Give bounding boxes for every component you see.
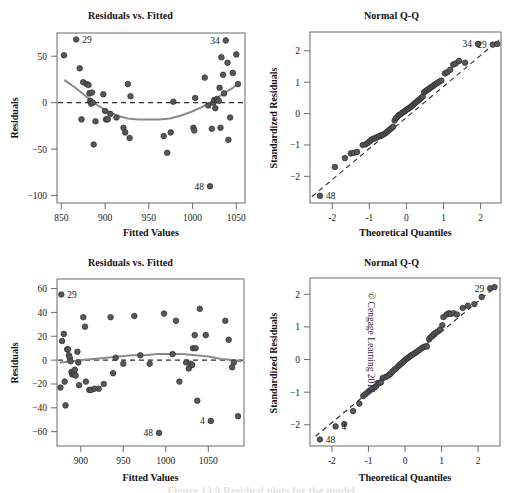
- data-point: [59, 292, 65, 298]
- data-point: [192, 332, 198, 338]
- x-tick-label: 2: [476, 456, 481, 466]
- data-point: [128, 93, 134, 99]
- data-point: [220, 72, 226, 78]
- data-point: [173, 318, 179, 324]
- data-point: [121, 361, 127, 367]
- y-tick-label: −40: [32, 403, 47, 413]
- data-point: [164, 150, 170, 156]
- plot-canvas-bottom-left: 900950100010506040200−20−40−60Fitted Val…: [0, 246, 261, 493]
- qq-reference-line: [312, 40, 499, 197]
- data-point: [207, 184, 213, 190]
- data-point: [132, 313, 138, 319]
- point-annotation: 48: [326, 435, 336, 445]
- y-axis-title: Residuals: [9, 342, 20, 383]
- panel-title: Normal Q-Q: [261, 10, 522, 21]
- y-tick-label: 20: [38, 332, 48, 342]
- y-tick-label: 0: [42, 98, 47, 108]
- data-point: [203, 332, 209, 338]
- data-point: [91, 142, 97, 148]
- x-tick-label: 1000: [156, 456, 175, 466]
- x-tick-label: 1: [439, 456, 444, 466]
- data-point: [195, 398, 201, 404]
- data-point: [197, 306, 203, 312]
- copyright-notice: © Cengage Learning 2013: [366, 292, 376, 452]
- data-point: [77, 66, 83, 72]
- data-point: [354, 149, 360, 155]
- data-point: [223, 38, 229, 44]
- y-tick-label: −50: [32, 145, 47, 155]
- y-tick-label: −20: [32, 379, 47, 389]
- data-point: [208, 418, 214, 424]
- figure-caption-partial: Figure 13.9 Residual plots for the model: [0, 484, 522, 493]
- x-tick-label: 1050: [199, 456, 218, 466]
- data-point: [122, 130, 128, 136]
- y-tick-label: 0: [295, 355, 300, 365]
- data-point: [81, 314, 87, 320]
- y-axis-title: Residuals: [9, 97, 20, 138]
- panel-top-right: Normal Q-Q -2-1012210−1−2Theoretical Qua…: [261, 0, 522, 246]
- point-annotation: 48: [326, 191, 336, 201]
- data-point: [456, 58, 462, 64]
- data-point: [156, 430, 162, 436]
- plot-frame: [57, 33, 245, 203]
- data-point: [447, 67, 453, 73]
- data-point: [332, 164, 338, 170]
- data-point: [61, 53, 67, 59]
- y-tick-label: −1: [290, 388, 300, 398]
- y-tick-label: 2: [295, 290, 300, 300]
- x-axis-title: Fitted Values: [123, 472, 179, 483]
- data-point: [462, 60, 468, 66]
- x-tick-label: 1000: [183, 213, 202, 223]
- data-point: [101, 381, 107, 387]
- data-point: [147, 361, 153, 367]
- panel-title: Residuals vs. Fitted: [0, 257, 261, 268]
- data-point: [216, 98, 222, 104]
- data-point: [58, 385, 64, 391]
- data-point: [206, 103, 212, 109]
- data-point: [105, 117, 111, 123]
- x-axis-title: Theoretical Quantiles: [359, 227, 451, 238]
- data-point: [495, 41, 501, 47]
- data-point: [62, 379, 68, 385]
- data-point: [350, 408, 356, 414]
- point-annotation: 34: [463, 39, 473, 49]
- x-tick-label: 2: [478, 213, 483, 223]
- point-annotation: 29: [82, 35, 92, 45]
- y-tick-label: −2: [290, 172, 300, 182]
- data-point: [440, 323, 446, 329]
- data-point: [75, 349, 81, 355]
- data-point: [96, 386, 102, 392]
- data-point: [170, 351, 176, 357]
- data-point: [161, 133, 167, 139]
- data-point: [76, 382, 82, 388]
- data-point: [90, 100, 96, 106]
- data-point: [127, 135, 133, 141]
- data-point: [61, 331, 67, 337]
- y-tick-label: 1: [295, 322, 300, 332]
- data-point: [333, 424, 339, 430]
- point-annotation: 29: [477, 40, 487, 50]
- point-annotation: 29: [475, 284, 485, 294]
- x-tick-label: 950: [142, 213, 157, 223]
- y-tick-label: 60: [38, 284, 48, 294]
- data-point: [424, 344, 430, 350]
- data-point: [390, 124, 396, 130]
- data-point: [65, 347, 71, 353]
- y-tick-label: −100: [27, 191, 47, 201]
- x-tick-label: -2: [328, 213, 336, 223]
- data-point: [192, 128, 198, 134]
- data-point: [72, 367, 78, 373]
- data-point: [223, 318, 229, 324]
- x-tick-label: 1050: [227, 213, 246, 223]
- point-annotation: 4: [342, 422, 347, 432]
- data-point: [317, 437, 323, 443]
- data-point: [89, 90, 95, 96]
- data-point: [193, 345, 199, 351]
- panel-title: Residuals vs. Fitted: [0, 10, 261, 21]
- plot-canvas-top-right: -2-1012210−1−2Theoretical QuantilesStand…: [261, 0, 522, 246]
- data-point: [82, 324, 88, 330]
- data-point: [231, 360, 237, 366]
- x-tick-label: -1: [365, 456, 373, 466]
- data-point: [218, 125, 224, 131]
- data-point: [219, 54, 225, 60]
